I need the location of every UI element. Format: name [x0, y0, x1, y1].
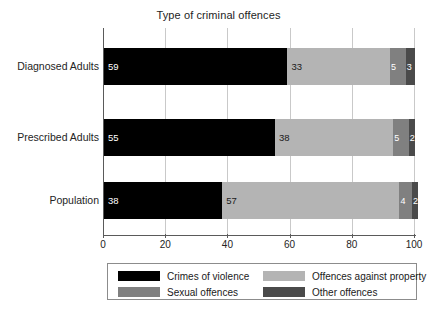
tick-mark	[290, 234, 291, 238]
bar-segment: 3	[406, 48, 415, 85]
legend-label: Crimes of violence	[167, 271, 249, 282]
bar-segment: 57	[222, 182, 399, 219]
bar-row: 553852	[104, 119, 415, 156]
tick-mark	[103, 234, 104, 238]
category-label: Population	[3, 194, 99, 206]
legend-entry: Sexual offences	[118, 285, 238, 299]
bar-segment-value: 38	[108, 196, 119, 206]
x-tick-label: 0	[100, 239, 106, 250]
x-tick-label: 60	[284, 239, 295, 250]
bar-segment-value: 2	[410, 133, 415, 142]
bar-segment-value: 57	[226, 196, 237, 206]
x-axis-line	[103, 235, 416, 236]
bar-segment: 38	[104, 182, 222, 219]
bar-segment-value: 38	[279, 133, 290, 143]
plot-area: 593353553852385742	[103, 28, 415, 235]
chart-legend: Crimes of violenceSexual offencesOffence…	[107, 263, 417, 300]
tick-mark	[165, 234, 166, 238]
bar-segment-value: 5	[394, 133, 399, 142]
bar-segment: 38	[275, 119, 393, 156]
bar-segment: 33	[287, 48, 390, 85]
tick-mark	[352, 234, 353, 238]
bar-row: 385742	[104, 182, 415, 219]
category-label: Prescribed Adults	[3, 131, 99, 143]
category-axis-labels: Diagnosed AdultsPrescribed AdultsPopulat…	[0, 28, 99, 235]
x-tick-label: 20	[160, 239, 171, 250]
stacked-bar-chart: Type of criminal offences Diagnosed Adul…	[0, 0, 437, 309]
legend-label: Offences against property	[312, 271, 426, 282]
legend-swatch	[263, 271, 305, 281]
bar-segment: 5	[390, 48, 406, 85]
bar-segment: 2	[409, 119, 415, 156]
legend-entry: Crimes of violence	[118, 269, 249, 283]
tick-mark	[414, 234, 415, 238]
bar-segment-value: 3	[407, 62, 412, 71]
bar-segment-value: 59	[108, 62, 119, 72]
bar-segment-value: 2	[413, 196, 418, 205]
legend-swatch	[118, 287, 160, 297]
bar-segment: 4	[399, 182, 411, 219]
legend-entry: Offences against property	[263, 269, 426, 283]
bar-segment: 55	[104, 119, 275, 156]
chart-title: Type of criminal offences	[0, 9, 437, 21]
bar-segment-value: 33	[291, 62, 302, 72]
bar-segment: 59	[104, 48, 287, 85]
legend-swatch	[263, 287, 305, 297]
legend-entry: Other offences	[263, 285, 377, 299]
legend-swatch	[118, 271, 160, 281]
tick-mark	[227, 234, 228, 238]
category-label: Diagnosed Adults	[3, 60, 99, 72]
bar-segment-value: 55	[108, 133, 119, 143]
x-tick-label: 80	[346, 239, 357, 250]
x-tick-label: 40	[222, 239, 233, 250]
legend-label: Other offences	[312, 287, 377, 298]
bar-row: 593353	[104, 48, 415, 85]
bar-segment-value: 4	[400, 196, 405, 205]
x-tick-label: 100	[406, 239, 423, 250]
bar-segment-value: 5	[391, 62, 396, 71]
legend-label: Sexual offences	[167, 287, 238, 298]
x-axis-ticks: 020406080100	[103, 238, 416, 252]
bar-segment: 2	[412, 182, 418, 219]
bar-segment: 5	[393, 119, 409, 156]
